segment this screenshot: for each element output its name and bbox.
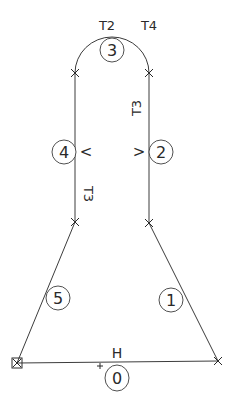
t2-label: T2 — [98, 18, 115, 33]
segment-3: 3 T2 T4 — [75, 18, 157, 73]
segment-5-label: 5 — [53, 289, 63, 308]
segment-0: H 0 — [17, 345, 218, 391]
segment-0-label: 0 — [112, 369, 122, 388]
segment-0-line — [17, 361, 218, 363]
segment-1-line — [149, 223, 218, 361]
segment-4: 4 < T3 — [52, 73, 96, 222]
segment-2: 2 > T3 — [129, 73, 173, 223]
segment-4-label: 4 — [59, 143, 69, 162]
segment-3-label: 3 — [107, 41, 117, 60]
segment-1: 1 — [149, 223, 218, 361]
segment-5: 5 — [17, 222, 75, 363]
route-diagram: H 0 1 2 > T3 3 T2 T4 4 < T3 5 — [0, 0, 233, 411]
node-markers — [12, 69, 222, 369]
t3-right-label: T3 — [129, 100, 144, 117]
mid-bottom-plus-icon — [97, 363, 103, 369]
t4-label: T4 — [140, 18, 157, 33]
direction-marker-right: > — [133, 143, 146, 161]
segment-1-label: 1 — [166, 291, 176, 310]
t3-left-label: T3 — [81, 185, 96, 202]
h-annotation: H — [112, 345, 123, 361]
segment-2-label: 2 — [156, 143, 166, 162]
direction-marker-left: < — [80, 143, 93, 161]
